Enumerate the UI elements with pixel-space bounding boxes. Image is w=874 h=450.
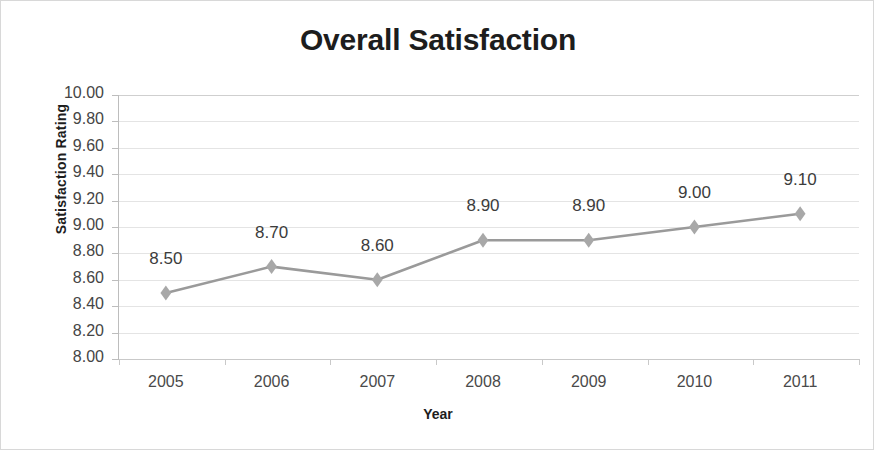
data-point-label: 8.50 <box>121 249 211 269</box>
data-point-label: 9.10 <box>755 170 845 190</box>
x-axis-tick-label: 2010 <box>649 373 739 391</box>
y-axis-tick <box>112 201 119 202</box>
x-axis-tick <box>753 359 754 365</box>
data-point-label: 8.90 <box>438 196 528 216</box>
y-axis-tick <box>112 253 119 254</box>
y-axis-tick-label: 10.00 <box>1 84 104 102</box>
x-axis-tick-label: 2007 <box>332 373 422 391</box>
x-axis-tick-label: 2008 <box>438 373 528 391</box>
y-axis-tick <box>112 148 119 149</box>
gridline <box>119 280 859 281</box>
x-axis-tick <box>225 359 226 365</box>
data-point-label: 8.70 <box>227 223 317 243</box>
chart-container: Overall Satisfaction Satisfaction Rating… <box>0 0 874 450</box>
y-axis-tick-label: 9.60 <box>1 137 104 155</box>
gridline <box>119 174 859 175</box>
x-axis-tick-label: 2011 <box>755 373 845 391</box>
y-axis-tick-label: 8.60 <box>1 269 104 287</box>
x-axis-title: Year <box>1 406 874 422</box>
gridline <box>119 121 859 122</box>
x-axis-tick <box>436 359 437 365</box>
x-axis-tick <box>859 359 860 365</box>
y-axis-tick <box>112 306 119 307</box>
y-axis-tick <box>112 227 119 228</box>
y-axis-tick <box>112 333 119 334</box>
x-axis-tick <box>542 359 543 365</box>
gridline <box>119 95 859 96</box>
y-axis-tick-label: 8.00 <box>1 348 104 366</box>
y-axis-tick-label: 9.40 <box>1 163 104 181</box>
y-axis-tick <box>112 174 119 175</box>
y-axis-tick <box>112 95 119 96</box>
x-axis-tick <box>330 359 331 365</box>
y-axis-tick-label: 8.20 <box>1 322 104 340</box>
y-axis-tick-label: 9.80 <box>1 110 104 128</box>
x-axis-tick <box>648 359 649 365</box>
y-axis-tick <box>112 121 119 122</box>
chart-title: Overall Satisfaction <box>1 23 874 57</box>
gridline <box>119 148 859 149</box>
y-axis-tick <box>112 280 119 281</box>
y-axis-tick-label: 9.20 <box>1 190 104 208</box>
gridline <box>119 333 859 334</box>
x-axis-tick-label: 2009 <box>544 373 634 391</box>
y-axis-tick-label: 8.80 <box>1 242 104 260</box>
y-axis-tick-label: 9.00 <box>1 216 104 234</box>
x-axis-tick-label: 2006 <box>227 373 317 391</box>
gridline <box>119 359 859 360</box>
x-axis-tick-label: 2005 <box>121 373 211 391</box>
data-point-label: 8.90 <box>544 196 634 216</box>
data-point-label: 9.00 <box>649 183 739 203</box>
y-axis-tick-label: 8.40 <box>1 295 104 313</box>
x-axis-tick <box>119 359 120 365</box>
gridline <box>119 306 859 307</box>
gridline <box>119 253 859 254</box>
y-axis-tick <box>112 359 119 360</box>
data-point-label: 8.60 <box>332 236 422 256</box>
